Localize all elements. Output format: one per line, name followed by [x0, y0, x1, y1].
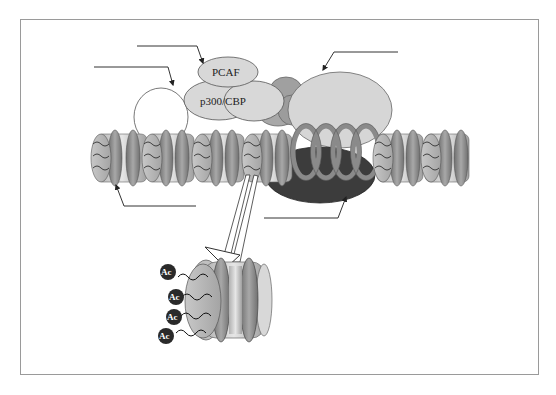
- chromatin-diagram: p300/CBP PCAF: [0, 0, 556, 395]
- svg-text:Ac: Ac: [169, 292, 180, 302]
- zoom-arrow: [205, 175, 258, 268]
- acetyl-marks: Ac Ac Ac Ac: [158, 264, 184, 344]
- svg-text:Ac: Ac: [167, 312, 178, 322]
- callout-pcaf: [137, 46, 203, 63]
- acetyl-mark-2: Ac: [168, 289, 184, 305]
- nucleosome-5: [373, 130, 423, 186]
- callout-right-complex: [323, 52, 398, 70]
- acetyl-mark-4: Ac: [158, 328, 174, 344]
- p300-cbp-label: p300/CBP: [200, 95, 246, 107]
- nucleosome-3: [192, 130, 244, 186]
- nucleosome-6: [421, 130, 469, 186]
- nucleosome-1: [91, 130, 147, 186]
- callout-nucleosome: [116, 185, 196, 206]
- acetyl-mark-1: Ac: [160, 264, 176, 280]
- pcaf-label: PCAF: [212, 66, 240, 78]
- pcaf-protein: PCAF: [198, 57, 258, 87]
- svg-text:Ac: Ac: [159, 331, 170, 341]
- nucleosome-2: [142, 130, 194, 186]
- svg-text:Ac: Ac: [161, 267, 172, 277]
- acetyl-mark-3: Ac: [166, 309, 182, 325]
- callout-white-factor: [94, 67, 173, 85]
- acetylated-nucleosome: [176, 258, 272, 342]
